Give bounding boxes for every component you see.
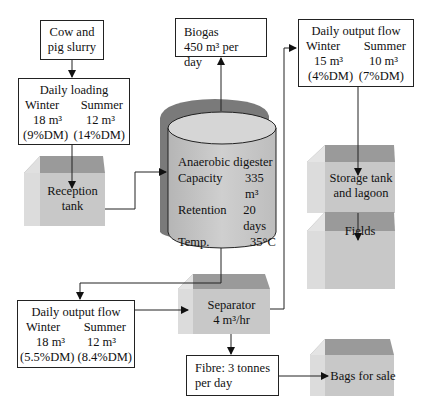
fibre-box: Fibre: 3 tonnes per day bbox=[186, 355, 279, 396]
summer-dm: (8.4%DM) bbox=[77, 350, 132, 365]
digester-title: Anaerobic digester bbox=[178, 154, 278, 170]
winter-volume: 18 m³ bbox=[33, 113, 62, 128]
slurry-line1: Cow and bbox=[41, 25, 103, 40]
output-bottom-title: Daily output flow bbox=[20, 305, 132, 320]
output-flow-top-box: Daily output flow Winter Summer 15 m³ 10… bbox=[298, 19, 414, 87]
temp-value: 35°C bbox=[250, 234, 276, 250]
summer-label: Summer bbox=[81, 98, 123, 113]
bags-block bbox=[310, 339, 394, 396]
output-flow-bottom-box: Daily output flow Winter Summer 18 m³ 12… bbox=[17, 300, 135, 368]
slurry-box: Cow and pig slurry bbox=[40, 20, 104, 60]
capacity-label: Capacity bbox=[178, 170, 245, 202]
summer-volume: 12 m³ bbox=[87, 335, 116, 350]
winter-label: Winter bbox=[25, 98, 59, 113]
separator: Separator 4 m³/hr bbox=[193, 298, 270, 328]
daily-loading-title: Daily loading bbox=[23, 83, 125, 98]
reception-line2: tank bbox=[40, 199, 105, 214]
reception-line1: Reception bbox=[40, 184, 105, 199]
fibre-line2: per day bbox=[195, 376, 270, 391]
retention-value: 20 days bbox=[243, 202, 278, 234]
summer-label: Summer bbox=[364, 39, 406, 54]
summer-dm: (14%DM) bbox=[74, 128, 125, 143]
capacity-value: 335 m³ bbox=[245, 170, 278, 202]
summer-label: Summer bbox=[84, 320, 126, 335]
slurry-line2: pig slurry bbox=[41, 40, 103, 55]
bags-for-sale: Bags for sale bbox=[328, 369, 398, 384]
reception-tank: Reception tank bbox=[40, 184, 105, 214]
digester-info: Anaerobic digester Capacity335 m³ Retent… bbox=[178, 154, 278, 250]
bags-label: Bags for sale bbox=[328, 369, 398, 384]
separator-line1: Separator bbox=[193, 298, 270, 313]
winter-dm: (5.5%DM) bbox=[20, 350, 75, 365]
winter-label: Winter bbox=[26, 320, 60, 335]
summer-dm: (7%DM) bbox=[359, 69, 404, 84]
output-top-title: Daily output flow bbox=[302, 24, 410, 39]
storage-tank: Storage tank and lagoon bbox=[325, 171, 397, 201]
biogas-box: Biogas 450 m³ per day bbox=[175, 18, 267, 57]
fields: Fields bbox=[325, 224, 395, 239]
winter-volume: 15 m³ bbox=[314, 54, 343, 69]
fibre-line1: Fibre: 3 tonnes bbox=[195, 361, 270, 376]
winter-label: Winter bbox=[306, 39, 340, 54]
winter-dm: (4%DM) bbox=[308, 69, 353, 84]
biogas-line2: 450 m³ per day bbox=[184, 40, 258, 70]
daily-loading-box: Daily loading Winter Summer 18 m³ 12 m³ … bbox=[18, 78, 130, 145]
summer-volume: 10 m³ bbox=[369, 54, 398, 69]
temp-label: Temp. bbox=[178, 234, 250, 250]
separator-line2: 4 m³/hr bbox=[193, 313, 270, 328]
retention-label: Retention bbox=[178, 202, 243, 234]
fields-label: Fields bbox=[325, 224, 395, 239]
winter-volume: 18 m³ bbox=[36, 335, 65, 350]
storage-line1: Storage tank bbox=[325, 171, 397, 186]
storage-line2: and lagoon bbox=[325, 186, 397, 201]
biogas-line1: Biogas bbox=[184, 25, 258, 40]
winter-dm: (9%DM) bbox=[23, 128, 68, 143]
summer-volume: 12 m³ bbox=[86, 113, 115, 128]
